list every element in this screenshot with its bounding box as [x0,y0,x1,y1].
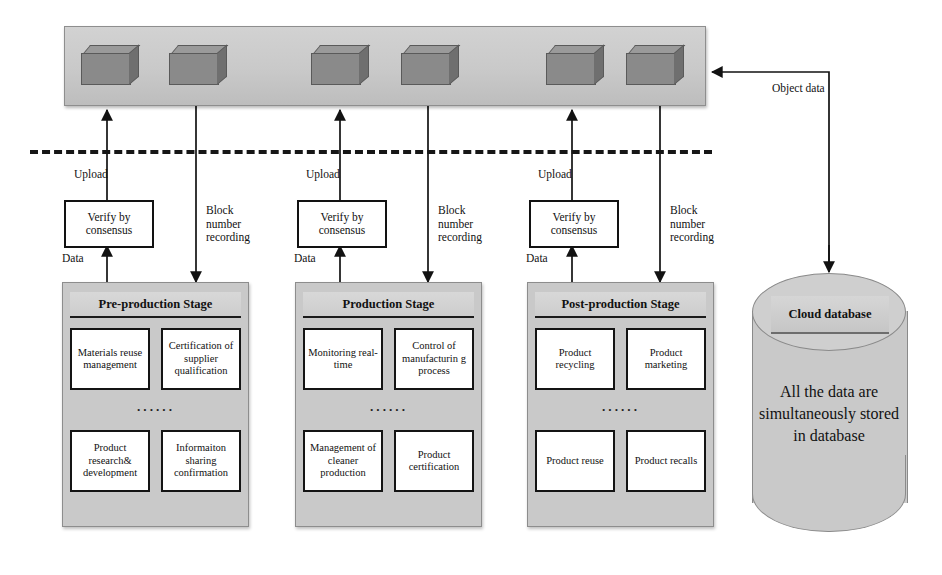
stage-cell[interactable]: Product recycling [535,328,615,390]
block-number-recording-label-1: Block number recording [206,204,250,245]
object-data-arrow [712,72,829,268]
stage-cell[interactable]: Management of cleaner production [303,430,383,492]
block-cube-6 [626,45,682,83]
blockchain-ledger-bar [64,26,706,106]
stage-cell[interactable]: Product research& development [70,430,150,492]
stage-cell[interactable]: Product certification [394,430,474,492]
stage-panel-post-production: Post-production Stage Product recycling … [527,282,714,527]
trust-boundary-dashed-line [30,150,712,154]
cylinder-bottom-cap [752,455,906,532]
stage-cell[interactable]: Certification of supplier qualification [161,328,241,390]
stage-title-production: Production Stage [303,292,474,318]
block-cube-4 [401,45,457,83]
verify-by-consensus-box-2: Verify by consensus [297,200,387,248]
upload-label-1: Upload [74,168,108,182]
cloud-database-cylinder: Cloud database All the data are simultan… [752,273,906,541]
data-label-2: Data [294,252,316,266]
ellipsis-marker: ······ [303,402,474,418]
stage-cell[interactable]: Product recalls [626,430,706,492]
stage-cell[interactable]: Product reuse [535,430,615,492]
block-cube-1 [81,45,137,83]
cloud-database-label: Cloud database [771,296,889,334]
ellipsis-marker: ······ [535,402,706,418]
data-label-3: Data [526,252,548,266]
stage-cell[interactable]: Monitoring real-time [303,328,383,390]
data-label-1: Data [62,252,84,266]
verify-by-consensus-box-3: Verify by consensus [529,200,619,248]
block-cube-3 [311,45,367,83]
block-number-recording-label-3: Block number recording [670,204,714,245]
block-cube-2 [169,45,225,83]
stage-cell[interactable]: Product marketing [626,328,706,390]
diagram-canvas: Object data Upload Verify by consensus D… [0,0,942,575]
stage-panel-production: Production Stage Monitoring real-time Co… [295,282,482,527]
stage-title-pre-production: Pre-production Stage [70,292,241,318]
object-data-label: Object data [772,82,825,96]
block-cube-5 [546,45,602,83]
stage-cell[interactable]: Control of manufacturin g process [394,328,474,390]
verify-by-consensus-box-1: Verify by consensus [64,200,154,248]
ellipsis-marker: ······ [70,402,241,418]
stage-cell[interactable]: Materials reuse management [70,328,150,390]
block-number-recording-label-2: Block number recording [438,204,482,245]
stage-panel-pre-production: Pre-production Stage Materials reuse man… [62,282,249,527]
cloud-database-description: All the data are simultaneously stored i… [752,381,906,447]
stage-title-post-production: Post-production Stage [535,292,706,318]
upload-label-2: Upload [306,168,340,182]
stage-cell[interactable]: Informaiton sharing confirmation [161,430,241,492]
upload-label-3: Upload [538,168,572,182]
cylinder-top-ellipse: Cloud database [752,273,906,351]
